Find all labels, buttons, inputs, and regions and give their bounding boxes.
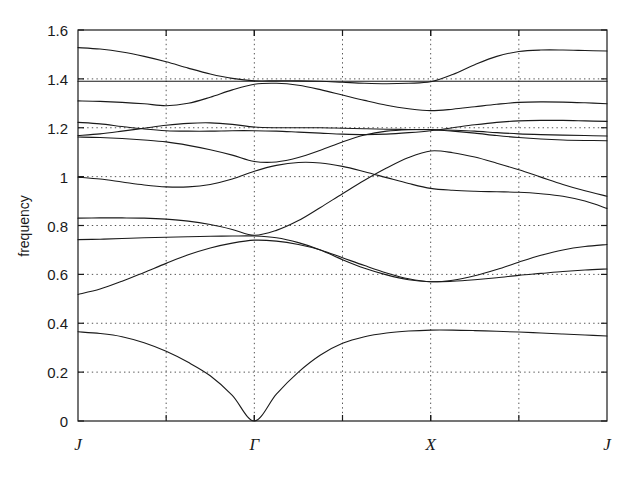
x-tick-label: X (425, 435, 435, 455)
x-tick-label: Γ (249, 435, 259, 455)
y-tick-label: 0 (0, 413, 68, 430)
plot-canvas (0, 0, 628, 482)
y-tick-label: 0.6 (0, 266, 68, 283)
band-curve (78, 83, 607, 110)
y-tick-label: 0.8 (0, 217, 68, 234)
band-structure-figure: frequency 00.20.40.60.811.21.41.6 JΓXJ (0, 0, 628, 482)
band-curve (78, 240, 607, 294)
x-tick-label: J (74, 435, 82, 455)
y-tick-label: 1 (0, 168, 68, 185)
x-tick-label: J (603, 435, 611, 455)
y-tick-label: 0.4 (0, 315, 68, 332)
y-tick-label: 1.2 (0, 119, 68, 136)
y-tick-label: 0.2 (0, 364, 68, 381)
y-tick-label: 1.4 (0, 70, 68, 87)
y-tick-label: 1.6 (0, 22, 68, 39)
grid-layer (78, 30, 607, 421)
